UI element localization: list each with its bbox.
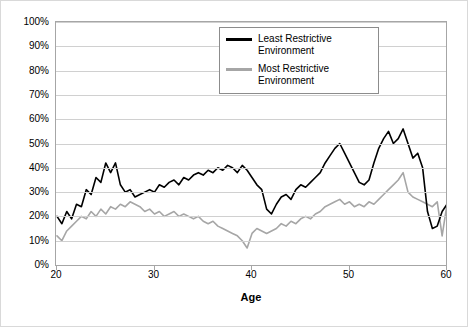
x-axis-tick-label: 40	[245, 269, 256, 280]
x-axis-tick-mark	[349, 266, 350, 270]
series-line	[57, 173, 447, 248]
chart-container: 0%10%20%30%40%50%60%70%80%90%100% 203040…	[0, 0, 468, 327]
x-axis-tick-mark	[446, 266, 447, 270]
legend-swatch-least-restrictive	[226, 38, 252, 41]
y-axis-tick-label: 20%	[5, 211, 49, 221]
gridline-horizontal	[56, 144, 446, 145]
legend-item-most-restrictive: Most Restrictive Environment	[226, 63, 372, 87]
x-axis-tick-labels: 2030405060	[55, 269, 447, 285]
x-axis-tick-label: 20	[50, 269, 61, 280]
y-axis-tick-label: 40%	[5, 163, 49, 173]
y-axis-tick-label: 10%	[5, 236, 49, 246]
x-axis-tick-label: 30	[148, 269, 159, 280]
legend-swatch-most-restrictive	[226, 68, 252, 71]
x-axis-tick-label: 60	[440, 269, 451, 280]
gridline-horizontal	[56, 95, 446, 96]
y-axis-tick-label: 0%	[5, 260, 49, 270]
legend-label-least-restrictive: Least Restrictive Environment	[258, 33, 372, 57]
chart-legend: Least Restrictive Environment Most Restr…	[219, 27, 379, 94]
gridline-horizontal	[56, 192, 446, 193]
gridline-horizontal	[56, 22, 446, 23]
legend-item-least-restrictive: Least Restrictive Environment	[226, 33, 372, 57]
gridline-horizontal	[56, 216, 446, 217]
x-axis-tick-mark	[251, 266, 252, 270]
gridline-horizontal	[56, 119, 446, 120]
y-axis-tick-label: 70%	[5, 90, 49, 100]
y-axis-tick-label: 90%	[5, 41, 49, 51]
y-axis-tick-labels: 0%10%20%30%40%50%60%70%80%90%100%	[1, 1, 49, 327]
x-axis-tick-mark	[56, 266, 57, 270]
gridline-horizontal	[56, 241, 446, 242]
x-axis-tick-label: 50	[343, 269, 354, 280]
y-axis-tick-label: 30%	[5, 187, 49, 197]
y-axis-tick-label: 50%	[5, 139, 49, 149]
x-axis-title: Age	[55, 291, 447, 303]
y-axis-tick-label: 80%	[5, 66, 49, 76]
gridline-horizontal	[56, 168, 446, 169]
legend-label-most-restrictive: Most Restrictive Environment	[258, 63, 372, 87]
y-axis-tick-label: 60%	[5, 114, 49, 124]
y-axis-tick-label: 100%	[5, 17, 49, 27]
x-axis-tick-mark	[154, 266, 155, 270]
